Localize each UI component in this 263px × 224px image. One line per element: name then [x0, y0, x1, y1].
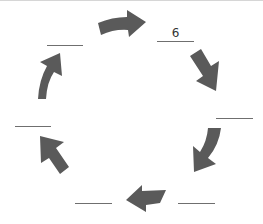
arrow-up-icon: [38, 53, 62, 99]
arrow-down-right-icon: [190, 49, 219, 91]
arrow-down-left-icon: [193, 128, 221, 172]
cycle-arrows: [0, 0, 263, 224]
arrow-up-left-icon: [40, 136, 69, 174]
arrow-left-icon: [126, 185, 166, 212]
arrow-right-icon: [98, 10, 146, 37]
